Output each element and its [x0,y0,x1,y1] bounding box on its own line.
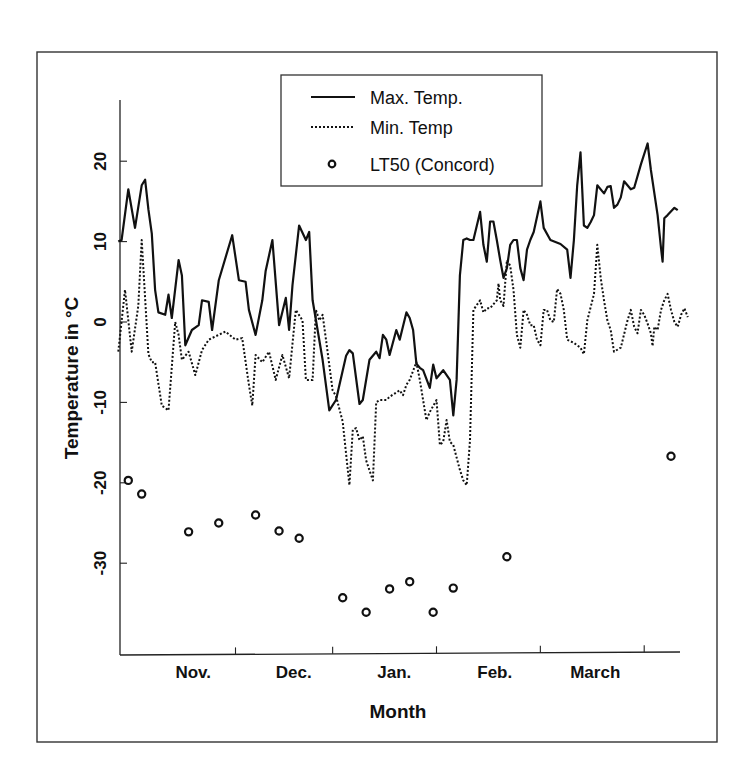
y-tick-label: 10 [91,232,110,251]
y-tick-label: 20 [91,152,110,171]
legend: Max. Temp. Min. Temp LT50 (Concord) [281,75,542,186]
lt50-point [275,527,282,534]
lt50-point [125,477,132,484]
y-tick-label: -30 [91,551,110,576]
x-tick-label: Dec. [276,663,312,682]
x-tick-label: Feb. [477,663,512,682]
lt50-point [503,553,510,560]
temperature-chart: 20100-10-20-30Nov.Dec.Jan.Feb.March Max.… [0,0,755,773]
lt50-point [386,585,393,592]
y-tick-label: -20 [91,471,110,496]
x-tick-label: Nov. [175,663,211,682]
lt50-point [215,519,222,526]
x-axis [120,652,680,655]
y-tick-label: 0 [91,317,110,326]
lt50-point [450,585,457,592]
legend-label-max: Max. Temp. [370,88,463,108]
min-temp-line [118,240,688,485]
x-tick-label: Jan. [377,663,411,682]
lt50-point [185,528,192,535]
y-axis-title: Temperature in °C [61,297,82,460]
min-temp-series [118,240,688,485]
lt50-point [363,609,370,616]
lt50-point [138,490,145,497]
lt50-point [430,609,437,616]
x-axis-title: Month [370,701,427,722]
lt50-point [406,578,413,585]
legend-label-lt50: LT50 (Concord) [370,155,495,175]
lt50-point [339,594,346,601]
legend-circle-marker-icon [329,161,336,168]
lt50-point [667,453,674,460]
legend-label-min: Min. Temp [370,118,453,138]
y-tick-label: -10 [91,390,110,415]
axes: 20100-10-20-30Nov.Dec.Jan.Feb.March [91,100,680,682]
x-tick-label: March [570,663,620,682]
lt50-point [252,511,259,518]
lt50-series [125,453,675,616]
lt50-point [296,535,303,542]
